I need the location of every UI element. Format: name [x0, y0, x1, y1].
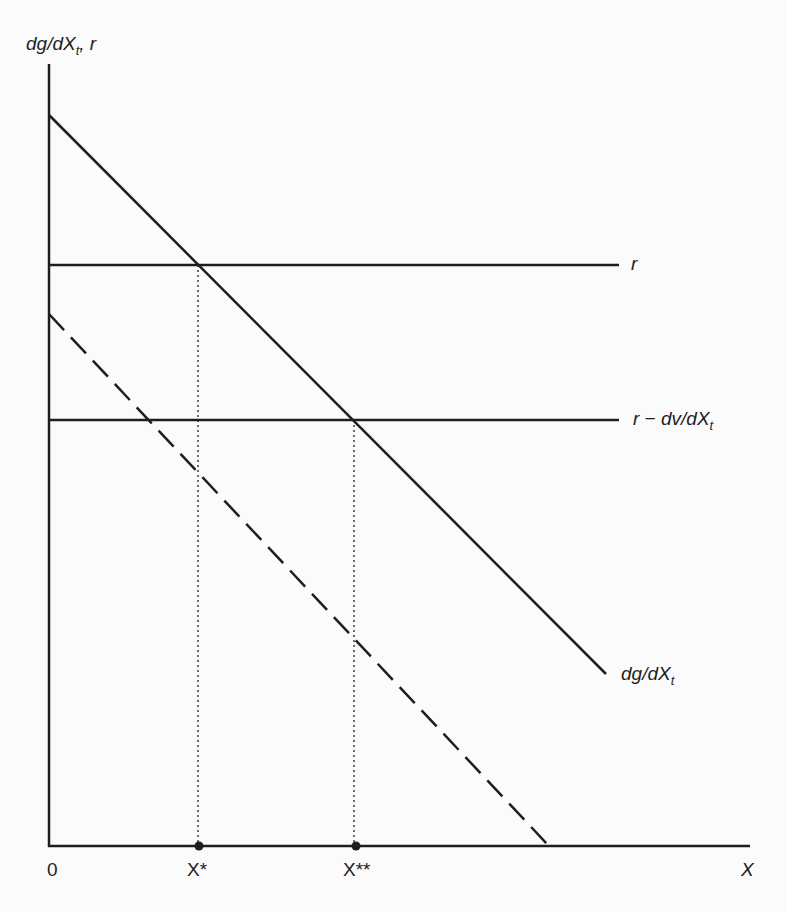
line-dg-dx [49, 115, 606, 674]
y-axis-label: dg/dXt, r [26, 33, 96, 58]
chart-canvas [0, 0, 787, 912]
x-star-label: X* [187, 859, 207, 881]
point-x-star-star [352, 842, 361, 851]
point-x-star [195, 842, 204, 851]
line-r-minus-label: r − dv/dXt [633, 408, 713, 433]
line-dashed-shifted [49, 314, 549, 846]
x-star-star-label: X** [343, 859, 370, 881]
line-r-label: r [631, 253, 637, 275]
origin-label: 0 [47, 859, 58, 881]
x-axis-label: X [741, 859, 754, 881]
line-dg-label: dg/dXt [621, 663, 674, 688]
